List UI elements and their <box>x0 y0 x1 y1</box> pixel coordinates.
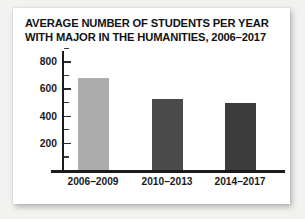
y-axis-label: 600 <box>17 83 57 94</box>
y-tick-major <box>64 61 71 63</box>
y-axis-label: 200 <box>17 137 57 148</box>
bar <box>152 99 183 170</box>
x-axis-label: 2014–2017 <box>215 176 266 187</box>
x-axis-label: 2006–2009 <box>68 176 119 187</box>
y-tick-minor <box>64 129 69 130</box>
y-tick-major <box>64 143 71 145</box>
y-tick-minor <box>64 102 69 103</box>
x-axis-label: 2010–2013 <box>142 176 193 187</box>
y-tick-major <box>64 116 71 118</box>
y-tick-minor <box>64 156 69 157</box>
y-tick-minor <box>64 48 69 49</box>
bar <box>225 103 256 170</box>
bar <box>78 78 109 170</box>
y-tick-major <box>64 88 71 90</box>
y-axis-label: 800 <box>17 56 57 67</box>
y-tick-minor <box>64 75 69 76</box>
y-axis-label: 400 <box>17 110 57 121</box>
chart-card: AVERAGE NUMBER OF STUDENTS PER YEAR WITH… <box>13 8 290 204</box>
x-axis-line <box>51 170 285 173</box>
y-axis-line <box>62 51 64 171</box>
plot-area: 200400600800 2006–20092010–20132014–2017 <box>13 8 290 204</box>
